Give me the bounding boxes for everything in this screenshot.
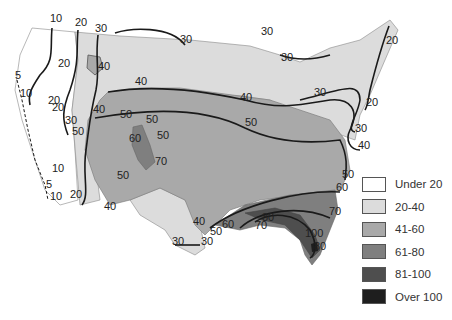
contour-label: 40 — [93, 103, 105, 115]
contour-label: 50 — [157, 129, 169, 141]
legend-swatch — [362, 177, 386, 192]
contour-label: 50 — [146, 113, 158, 125]
legend-swatch — [362, 222, 386, 237]
contour-label: 30 — [95, 22, 107, 34]
contour-label: 40 — [104, 200, 116, 212]
contour-label: 50 — [120, 108, 132, 120]
contour-label: 70 — [329, 205, 341, 217]
legend-label: 61-80 — [395, 246, 424, 258]
legend-swatch — [362, 267, 386, 282]
contour-label: 10 — [20, 87, 32, 99]
contour-label: 30 — [180, 33, 192, 45]
contour-label: 20 — [366, 96, 378, 108]
contour-label: 100 — [305, 227, 323, 239]
contour-label: 20 — [58, 57, 70, 69]
contour-label: 30 — [172, 235, 184, 247]
contour-label: 30 — [261, 25, 273, 37]
legend-item: 20-40 — [362, 196, 442, 219]
contour-label: 5 — [15, 69, 21, 81]
contour-label: 30 — [201, 235, 213, 247]
contour-label: 40 — [98, 60, 110, 72]
contour-label: 60 — [129, 132, 141, 144]
contour-label: 10 — [52, 162, 64, 174]
contour-label: 60 — [222, 218, 234, 230]
contour-label: 50 — [342, 168, 354, 180]
contour-label: 20 — [70, 188, 82, 200]
contour-label: 40 — [240, 91, 252, 103]
map-legend: Under 20 20-40 41-60 61-80 81-100 Over 1… — [362, 173, 442, 308]
contour-label: 20 — [386, 34, 398, 46]
legend-item: 81-100 — [362, 263, 442, 286]
contour-label: 30 — [281, 51, 293, 63]
contour-label: 10 — [50, 190, 62, 202]
contour-label: 10 — [50, 12, 62, 24]
legend-label: 81-100 — [395, 268, 431, 280]
contour-label: 50 — [245, 116, 257, 128]
contour-label: 30 — [314, 86, 326, 98]
legend-swatch — [362, 199, 386, 214]
legend-swatch — [362, 244, 386, 259]
contour-label: 40 — [135, 75, 147, 87]
legend-item: Over 100 — [362, 286, 442, 309]
contour-label: 30 — [355, 122, 367, 134]
contour-label: 20 — [48, 94, 60, 106]
legend-label: 41-60 — [395, 223, 424, 235]
contour-label: 40 — [358, 139, 370, 151]
legend-label: 20-40 — [395, 201, 424, 213]
legend-label: Under 20 — [395, 178, 442, 190]
contour-label: 60 — [336, 181, 348, 193]
contour-label: 50 — [72, 125, 84, 137]
contour-label: 70 — [255, 219, 267, 231]
contour-label: 70 — [155, 155, 167, 167]
contour-label: 80 — [314, 240, 326, 252]
legend-item: Under 20 — [362, 173, 442, 196]
legend-item: 61-80 — [362, 241, 442, 264]
contour-label: 20 — [75, 16, 87, 28]
contour-label: 50 — [117, 169, 129, 181]
contour-label: 40 — [193, 215, 205, 227]
legend-item: 41-60 — [362, 218, 442, 241]
legend-label: Over 100 — [395, 291, 442, 303]
contour-label: 5 — [46, 178, 52, 190]
legend-swatch — [362, 289, 386, 304]
